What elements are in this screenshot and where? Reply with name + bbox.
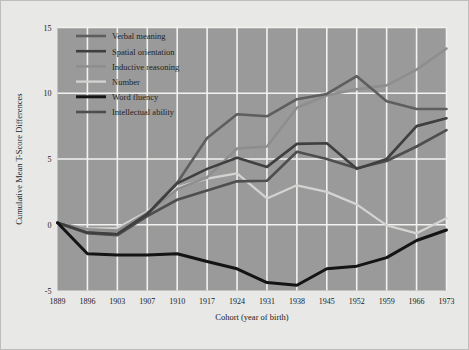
x-tick-label: 1917 [199,297,215,306]
x-tick-label: 1910 [169,297,185,306]
x-tick-label: 1938 [289,297,305,306]
x-tick-label: 1931 [259,297,275,306]
x-tick-label: 1907 [139,297,155,306]
legend-label: Inductive reasoning [112,62,180,72]
y-axis-title: Cumulative Mean T-Score Differences [14,93,24,224]
x-tick-label: 1959 [379,297,395,306]
x-tick-label: 1952 [349,297,365,306]
y-axis-ticks: 151050-5 [44,24,52,296]
legend-label: Verbal meaning [112,31,166,41]
x-tick-label: 1889 [50,297,66,306]
chart-figure: 151050-5 1889189619031907191019171924193… [0,0,469,350]
x-tick-label: 1945 [319,297,335,306]
y-tick-label: 15 [44,24,52,33]
line-chart: 151050-5 1889189619031907191019171924193… [0,0,469,350]
legend-label: Word fluency [112,92,159,102]
x-tick-label: 1973 [439,297,455,306]
legend-label: Spatial orientation [112,47,175,57]
y-tick-label: 0 [48,221,52,230]
x-tick-label: 1903 [109,297,125,306]
x-axis-ticks: 1889189619031907191019171924193119381945… [50,297,455,306]
x-tick-label: 1896 [79,297,95,306]
legend-label: Intellectual ability [112,107,175,117]
x-tick-label: 1966 [409,297,425,306]
x-tick-label: 1924 [229,297,245,306]
y-tick-label: 10 [44,89,52,98]
x-axis-title: Cohort (year of birth) [215,312,289,322]
y-tick-label: 5 [48,155,52,164]
y-tick-label: -5 [45,287,52,296]
legend-label: Number [112,77,140,87]
